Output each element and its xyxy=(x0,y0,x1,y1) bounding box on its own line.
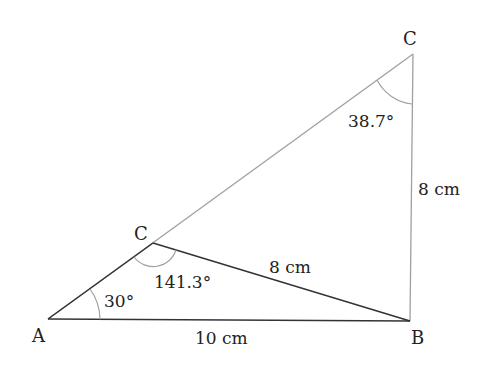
vertex-label-c2: C xyxy=(403,28,417,49)
line-a-to-c1 xyxy=(48,243,153,319)
angle-arc-c2 xyxy=(377,80,412,104)
angle-label-a: 30° xyxy=(104,291,134,311)
vertex-label-a: A xyxy=(31,325,46,346)
vertex-label-b: B xyxy=(411,327,424,348)
side-label-ab: 10 cm xyxy=(195,328,248,348)
angle-label-c2: 38.7° xyxy=(348,111,394,131)
angle-label-c1: 141.3° xyxy=(154,272,211,292)
line-c2-to-b xyxy=(410,54,413,321)
side-label-c1b: 8 cm xyxy=(269,257,311,277)
triangle-diagram: A B C C 10 cm 8 cm 8 cm 30° 141.3° 38.7° xyxy=(0,0,493,366)
vertex-label-c1: C xyxy=(134,223,148,244)
line-a-to-b xyxy=(48,319,410,321)
side-label-c2b: 8 cm xyxy=(418,179,460,199)
angle-arc-a xyxy=(90,289,100,319)
